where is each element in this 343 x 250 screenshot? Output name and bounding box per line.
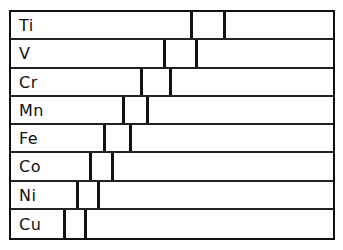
band-line-right [146, 97, 149, 123]
element-label-cu: Cu [19, 214, 41, 233]
row-co: Co [11, 153, 333, 181]
band-line-left [103, 125, 106, 151]
band-line-right [111, 153, 114, 179]
band-line-left [163, 40, 166, 66]
band-line-right [169, 69, 172, 95]
band-line-right [97, 182, 100, 208]
element-label-ti: Ti [19, 16, 34, 35]
row-cu: Cu [11, 210, 333, 238]
row-ni: Ni [11, 182, 333, 210]
band-line-left [76, 182, 79, 208]
row-fe: Fe [11, 125, 333, 153]
band-line-left [140, 69, 143, 95]
element-label-v: V [19, 44, 30, 63]
band-line-right [223, 12, 226, 38]
element-label-mn: Mn [19, 100, 44, 119]
element-label-fe: Fe [19, 129, 38, 148]
element-label-cr: Cr [19, 72, 38, 91]
element-label-ni: Ni [19, 185, 36, 204]
row-ti: Ti [11, 12, 333, 40]
element-label-co: Co [19, 157, 41, 176]
band-line-left [190, 12, 193, 38]
row-cr: Cr [11, 69, 333, 97]
band-line-right [195, 40, 198, 66]
band-line-left [63, 210, 66, 238]
band-line-left [122, 97, 125, 123]
band-line-right [129, 125, 132, 151]
diagram-frame: Ti V Cr Mn Fe Co Ni Cu [9, 10, 335, 240]
row-v: V [11, 40, 333, 68]
row-mn: Mn [11, 97, 333, 125]
band-line-right [84, 210, 87, 238]
band-line-left [89, 153, 92, 179]
